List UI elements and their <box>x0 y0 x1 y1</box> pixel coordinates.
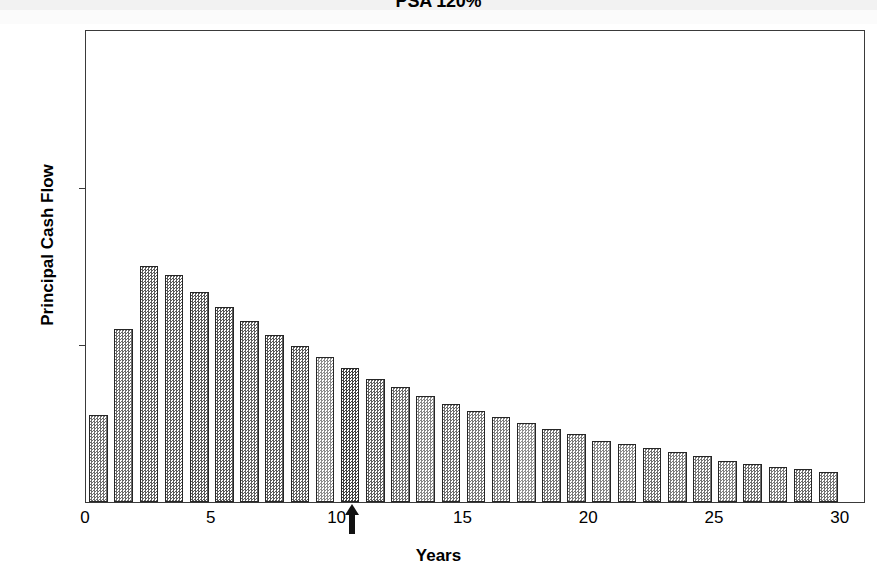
bar <box>668 452 687 502</box>
bar <box>391 387 410 502</box>
y-tick-mark <box>79 188 86 189</box>
bar <box>366 379 385 502</box>
bar <box>693 456 712 502</box>
bar <box>89 415 108 502</box>
bar <box>316 357 335 502</box>
bar <box>291 346 310 502</box>
bar <box>542 429 561 502</box>
wal-arrow-icon <box>345 504 359 534</box>
bar <box>517 423 536 502</box>
bar <box>416 396 435 502</box>
bar <box>442 404 461 502</box>
bar <box>215 307 234 503</box>
arrow-shaft <box>349 513 355 534</box>
x-tick-label: 5 <box>181 509 241 527</box>
y-tick-mark <box>79 345 86 346</box>
bar <box>240 321 259 502</box>
bar <box>819 472 838 502</box>
chart-title: PSA 120% <box>0 0 877 11</box>
bar <box>643 448 662 502</box>
bar <box>165 275 184 502</box>
x-tick-label: 25 <box>684 509 744 527</box>
bar <box>265 335 284 502</box>
bar <box>492 417 511 502</box>
x-tick-label: 15 <box>432 509 492 527</box>
bar <box>114 329 133 502</box>
x-axis-title: Years <box>0 546 877 566</box>
bar <box>618 444 637 502</box>
bar <box>743 464 762 502</box>
x-tick-label: 20 <box>558 509 618 527</box>
bar <box>769 467 788 502</box>
bar <box>592 441 611 502</box>
y-axis-title: Principal Cash Flow <box>38 95 58 395</box>
bar <box>718 461 737 502</box>
bar <box>794 469 813 502</box>
plot-area <box>86 31 864 502</box>
plot-frame <box>85 30 865 503</box>
bar <box>467 411 486 502</box>
x-tick-label: 0 <box>55 509 115 527</box>
x-tick-label: 30 <box>810 509 870 527</box>
bar <box>140 266 159 503</box>
bar <box>341 368 360 502</box>
bar <box>567 434 586 502</box>
bar <box>190 292 209 502</box>
